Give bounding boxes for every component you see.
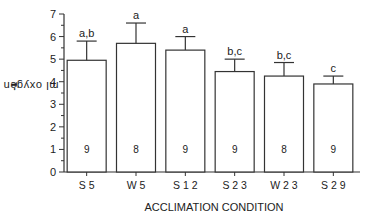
significance-label: c — [331, 62, 337, 74]
x-tick-label: S 1 2 — [173, 179, 198, 191]
significance-label: b,c — [277, 49, 292, 61]
significance-label: b,c — [227, 45, 242, 57]
significance-label: a — [133, 9, 140, 21]
x-axis-label: ACCLIMATION CONDITION — [64, 201, 364, 213]
y-tick-label: 2 — [50, 121, 56, 133]
bar — [67, 60, 106, 172]
y-tick-label: 3 — [50, 98, 56, 110]
sample-size-label: 8 — [281, 144, 287, 155]
significance-label: a — [182, 23, 189, 35]
sample-size-label: 8 — [133, 144, 139, 155]
x-tick-label: W 2 3 — [270, 179, 298, 191]
sample-size-label: 9 — [331, 144, 337, 155]
x-tick-label: S 5 — [79, 179, 95, 191]
sample-size-label: 9 — [183, 144, 189, 155]
y-tick-label: 6 — [50, 31, 56, 43]
x-tick-label: S 2 9 — [321, 179, 346, 191]
y-tick-label: 7 — [50, 8, 56, 20]
bar-chart: 01234567a,b9S 5a8W 5a9S 1 2b,c9S 2 3b,c8… — [0, 0, 365, 218]
y-tick-label: 1 — [50, 143, 56, 155]
x-tick-label: S 2 3 — [222, 179, 247, 191]
y-axis-label: ml oxygen (g•h) -1 — [1, 0, 31, 172]
y-tick-label: 5 — [50, 53, 56, 65]
bar — [265, 76, 304, 172]
significance-label: a,b — [79, 27, 94, 39]
bar — [215, 72, 254, 172]
sample-size-label: 9 — [84, 144, 90, 155]
bar — [314, 84, 353, 172]
plot-area: 01234567a,b9S 5a8W 5a9S 1 2b,c9S 2 3b,c8… — [0, 0, 365, 218]
sample-size-label: 9 — [232, 144, 238, 155]
y-tick-label: 0 — [50, 166, 56, 178]
x-tick-label: W 5 — [127, 179, 146, 191]
